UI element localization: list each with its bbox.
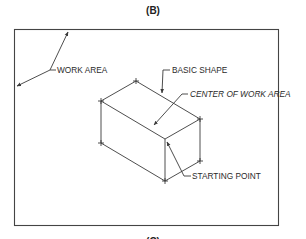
box-edge: [165, 119, 200, 139]
box-edge: [101, 101, 165, 139]
work-area-label: WORK AREA: [57, 65, 108, 75]
center-label: CENTER OF WORK AREA: [190, 89, 291, 99]
next-figure-caption: (C): [146, 236, 160, 239]
work-area-leader: [17, 32, 68, 86]
basic-shape-label: BASIC SHAPE: [172, 65, 228, 75]
box-edge: [101, 81, 136, 101]
diagram-canvas: (B) WORK AREA BASIC SHAPE CENTER OF WOR: [0, 0, 306, 239]
corner-tick: [98, 140, 104, 146]
basic-shape-leader: [162, 70, 170, 93]
work-area-arrow-left: [17, 70, 50, 86]
corner-tick: [197, 116, 203, 122]
figure-title: (B): [146, 5, 160, 16]
box-edge: [101, 143, 165, 181]
corner-tick: [133, 78, 139, 84]
corner-tick: [197, 158, 203, 164]
corner-tick: [98, 98, 104, 104]
starting-point-leader: [167, 142, 191, 176]
center-leader: [154, 94, 188, 125]
corner-tick: [162, 178, 168, 184]
box-edge: [136, 81, 200, 119]
starting-point-label: STARTING POINT: [192, 171, 261, 181]
